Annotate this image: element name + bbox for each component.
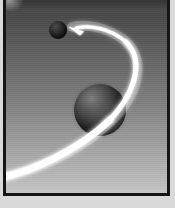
small-sphere	[49, 21, 67, 39]
large-sphere-edge-shadow	[72, 82, 128, 138]
top-vignette	[6, 0, 167, 10]
large-sphere	[74, 84, 126, 136]
large-sphere-rim-light	[74, 84, 126, 136]
picture-frame	[3, 0, 170, 196]
arrowhead-icon	[68, 27, 84, 36]
artwork-background	[6, 0, 167, 193]
corner-smudge	[6, 0, 24, 12]
illustration-canvas: A bright white curved arrow sweeps aroun…	[0, 0, 175, 208]
arc-head-approach	[76, 27, 126, 42]
